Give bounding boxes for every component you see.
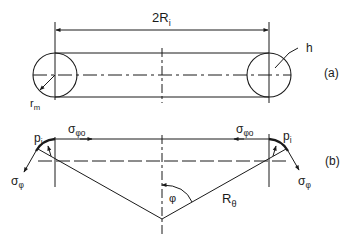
radius-rm-label: rm <box>30 98 40 112</box>
left-radius-line <box>38 149 162 219</box>
dimension-2ri-label: 2Ri <box>152 11 171 28</box>
sigma-phi-right-label: σφ <box>298 175 311 190</box>
sigma-phi-o-left-label: σφo <box>68 123 86 138</box>
part-b-label: (b) <box>325 155 340 167</box>
angle-phi-arc <box>162 185 192 202</box>
thickness-h-leader <box>275 48 298 68</box>
toroidal-shell-diagram <box>0 0 357 249</box>
part-a-torus-section <box>33 22 298 103</box>
pressure-left-label: pi <box>34 132 43 147</box>
thickness-h-label: h <box>306 42 313 54</box>
sigma-phi-left-label: σφ <box>11 175 24 190</box>
angle-phi-label: φ <box>169 193 176 204</box>
part-b-free-body <box>24 134 299 236</box>
sigma-phi-o-right-label: σφo <box>236 123 254 138</box>
part-a-label: (a) <box>324 67 339 79</box>
sigma-phi-left-arrow <box>24 151 36 172</box>
radius-r-theta-label: Rθ <box>222 192 236 209</box>
radius-rm-arrow <box>40 75 55 90</box>
pressure-right-label: pi <box>283 130 292 145</box>
sigma-phi-right-arrow <box>288 151 299 170</box>
